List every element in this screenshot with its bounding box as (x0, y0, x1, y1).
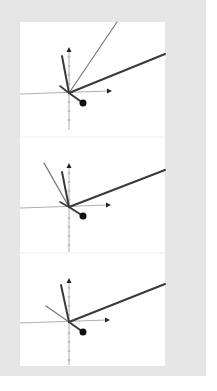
x-axis-arrow-icon (106, 203, 111, 208)
y-axis-arrow-icon (67, 163, 72, 168)
vector-diagram (0, 0, 217, 391)
x-axis-arrow-icon (105, 318, 110, 323)
endpoint-dot (80, 329, 87, 336)
endpoint-dot (80, 100, 87, 107)
endpoint-dot (80, 213, 87, 220)
vector-line (69, 54, 165, 93)
x-axis (20, 91, 109, 94)
vector-line (69, 170, 165, 207)
x-axis (20, 205, 108, 208)
y-axis-arrow-icon (67, 47, 72, 52)
y-axis-arrow-icon (67, 278, 72, 283)
vector-line (69, 284, 165, 322)
x-axis-arrow-icon (107, 89, 112, 94)
x-axis (20, 320, 107, 323)
